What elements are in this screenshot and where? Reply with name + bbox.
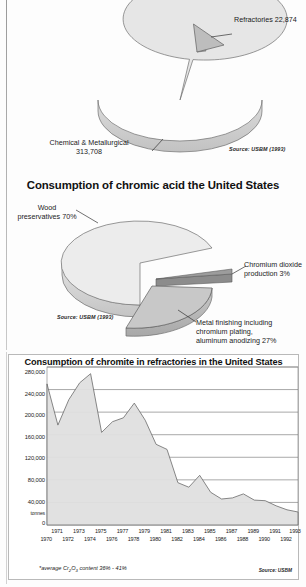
xtick-1988: 1988 xyxy=(233,536,251,542)
footnote-text: *average Cr2O3 content 36% - 41% xyxy=(39,565,127,571)
pie1-source: Source: USBM (1993) xyxy=(229,146,285,152)
xtick-1992: 1992 xyxy=(277,536,295,542)
xtick-1975: 1975 xyxy=(92,528,110,534)
area-chart-source: Source: USBM xyxy=(259,568,292,573)
pie1-label-chem-met: Chemical & Metallurgical 313,708 xyxy=(29,138,149,156)
xtick-1989: 1989 xyxy=(244,528,262,534)
xtick-1971: 1971 xyxy=(48,528,66,534)
xtick-1986: 1986 xyxy=(212,536,230,542)
xtick-1972: 1972 xyxy=(59,536,77,542)
yaxis-unit-label: tonnes xyxy=(7,510,45,516)
ytick-240000: 240,000 xyxy=(7,391,45,397)
ytick-80000: 80,000 xyxy=(7,477,45,483)
pie2-label-chromium-dioxide: Chromium dioxide production 3% xyxy=(244,260,302,278)
xtick-1979: 1979 xyxy=(135,528,153,534)
xtick-1987: 1987 xyxy=(222,528,240,534)
document-page: (tonnes) Refractories 22,874 Chemical & … xyxy=(0,0,306,587)
pie2-title: Consumption of chromic acid the United S… xyxy=(0,179,306,191)
ytick-120000: 120,000 xyxy=(7,455,45,461)
xtick-1970: 1970 xyxy=(37,536,55,542)
pie2-label-metal-finishing: Metal finishing including chromium plati… xyxy=(196,318,276,345)
pie1-label-refractories: Refractories 22,874 xyxy=(234,15,297,24)
xtick-1980: 1980 xyxy=(146,536,164,542)
ytick-200000: 200,000 xyxy=(7,412,45,418)
ytick-280000: 280,000 xyxy=(7,369,45,375)
xtick-1977: 1977 xyxy=(113,528,131,534)
xtick-1976: 1976 xyxy=(103,536,121,542)
area-chart-plot xyxy=(47,367,298,525)
pie2-leader-wood xyxy=(76,210,98,223)
area-chart-footnote: *average Cr2O3 content 36% - 41% xyxy=(39,565,127,573)
xtick-1993: 1993 xyxy=(286,528,304,534)
area-chart-title: Consumption of chromite in refractories … xyxy=(9,357,298,367)
xtick-1985: 1985 xyxy=(201,528,219,534)
ytick-0: 0 xyxy=(7,520,45,526)
ytick-160000: 160,000 xyxy=(7,434,45,440)
xtick-1983: 1983 xyxy=(179,528,197,534)
xtick-1981: 1981 xyxy=(157,528,175,534)
xtick-1978: 1978 xyxy=(124,536,142,542)
xtick-1984: 1984 xyxy=(190,536,208,542)
xtick-1974: 1974 xyxy=(81,536,99,542)
page-left-rule-lower xyxy=(6,352,7,584)
pie2-label-wood: Wood preservatives 70% xyxy=(16,203,78,221)
xtick-1990: 1990 xyxy=(255,536,273,542)
xtick-1991: 1991 xyxy=(266,528,284,534)
xtick-1973: 1973 xyxy=(70,528,88,534)
pie2-source: Source: USBM (1993) xyxy=(57,314,113,320)
area-chart-panel: Consumption of chromite in refractories … xyxy=(8,354,299,580)
xtick-1982: 1982 xyxy=(168,536,186,542)
ytick-40000: 40,000 xyxy=(7,499,45,505)
